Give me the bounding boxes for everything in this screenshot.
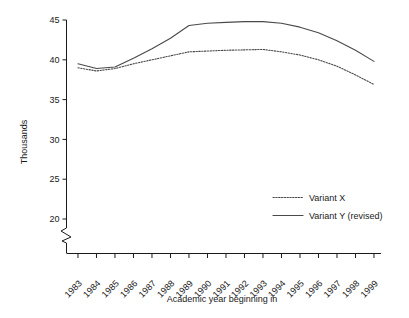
x-tick-label: 1987: [137, 278, 158, 299]
legend-label-variant-y-revised: Variant Y (revised): [309, 211, 383, 221]
y-tick-label: 25: [49, 174, 59, 184]
x-tick-label: 1983: [63, 278, 84, 299]
x-axis-title: Academic year beginning in: [167, 294, 278, 304]
chart-legend: Variant X Variant Y (revised): [273, 193, 383, 221]
x-axis-ticks: [78, 254, 374, 259]
series-line-variant-y-revised: [78, 22, 374, 69]
y-axis-break-icon: [61, 228, 71, 243]
x-tick-label: 1998: [340, 278, 361, 299]
x-tick-label: 1986: [118, 278, 139, 299]
x-tick-label: 1996: [303, 278, 324, 299]
series-line-variant-x: [78, 49, 374, 84]
line-chart-canvas: Thousands 202530354045 19831984198519861…: [0, 0, 409, 318]
x-tick-label: 1984: [81, 278, 102, 299]
x-tick-label: 1985: [100, 278, 121, 299]
legend-label-variant-x: Variant X: [309, 193, 345, 203]
x-tick-label: 1997: [322, 278, 343, 299]
y-axis-title: Thousands: [19, 119, 29, 164]
chart-figure: Thousands 202530354045 19831984198519861…: [0, 0, 409, 318]
x-tick-label: 1999: [359, 278, 380, 299]
y-tick-label: 20: [49, 214, 59, 224]
y-tick-label: 35: [49, 95, 59, 105]
y-tick-label: 45: [49, 15, 59, 25]
y-axis-ticks: 202530354045: [49, 15, 66, 224]
y-tick-label: 30: [49, 135, 59, 145]
x-tick-label: 1995: [285, 278, 306, 299]
y-tick-label: 40: [49, 55, 59, 65]
